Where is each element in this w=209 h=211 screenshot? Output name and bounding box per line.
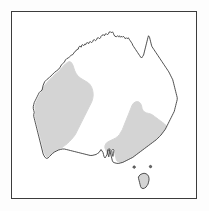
bass-strait-islet-east: [149, 165, 151, 167]
bass-strait-islet-west: [133, 166, 136, 168]
map-frame: [11, 11, 197, 199]
australia-distribution-map: [12, 12, 196, 198]
figure-root: [0, 0, 209, 211]
